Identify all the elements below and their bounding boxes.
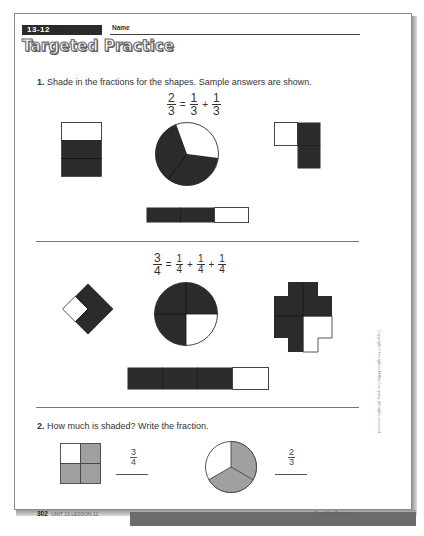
question-1-text: Shade in the fractions for the shapes. S… [47,77,312,87]
background-bar [130,512,416,526]
section-divider [36,407,359,408]
unit-lesson-label: UNIT 13 LESSON 12 [51,511,98,517]
square-fourths-shape [60,443,102,485]
footer-left: 302 UNIT 13 LESSON 12 [37,510,98,517]
cross-fourths-shape[interactable] [274,282,334,354]
bar-fourths-shape[interactable] [127,367,271,390]
equation-three-fourths: 3 4 = 1 4 + 1 4 + 1 4 [153,252,226,277]
section-divider [36,241,359,242]
copyright-text: Copyright © Houghton Mifflin Company. Al… [377,330,382,434]
circle-fourths-shape[interactable] [154,282,220,348]
page-title: Targeted Practice [22,37,174,55]
fraction-term: 1 3 [190,92,199,117]
page-number: 302 [37,510,48,517]
circle-thirds-shape[interactable] [155,122,221,188]
answer-line-1[interactable] [116,474,148,475]
fraction-term: 1 4 [197,254,205,275]
circle-thirds-shaded-shape [205,441,259,495]
question-2-text: How much is shaded? Write the fraction. [47,421,208,431]
question-2-prompt: 2. How much is shaded? Write the fractio… [37,421,208,431]
rectangle-thirds-shape[interactable] [61,122,103,178]
fraction-term: 1 3 [212,92,221,117]
name-input-line[interactable] [110,34,360,35]
answer-line-2[interactable] [275,474,307,475]
fraction-lhs: 2 3 [167,92,176,117]
answer-fraction-1: 3 4 [130,448,137,467]
fraction-term: 1 4 [218,254,226,275]
equation-two-thirds: 2 3 = 1 3 + 1 3 [167,92,221,117]
question-2-number: 2. [37,421,45,431]
bar-thirds-shape[interactable] [146,207,250,223]
answer-fraction-2: 2 3 [288,448,295,467]
name-label: Name [112,24,130,31]
footer-right-label: Possible Outcomes [314,510,357,516]
diamond-fourths-shape[interactable] [62,283,116,337]
equals-sign: = [165,259,173,270]
question-1-number: 1. [37,77,45,87]
plus-sign: + [186,259,194,270]
plus-sign: + [208,259,216,270]
lesson-code-badge: 13-12 [22,25,102,35]
question-1-prompt: 1. Shade in the fractions for the shapes… [37,77,312,87]
l-shape-thirds-shape[interactable] [274,122,322,170]
fraction-term: 1 4 [176,254,184,275]
equals-sign: = [179,99,187,110]
plus-sign: + [201,99,209,110]
fraction-lhs: 3 4 [153,252,162,277]
